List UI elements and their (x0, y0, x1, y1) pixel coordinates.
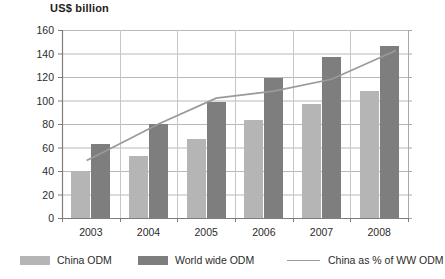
x-tick-label-2007: 2007 (310, 226, 334, 238)
legend-swatch-world-wide-odm (138, 256, 168, 265)
y-tick-label-80: 80 (42, 118, 54, 130)
y-tick-label-0: 0 (48, 212, 54, 224)
legend-label-world-wide-odm: World wide ODM (175, 254, 254, 266)
legend-line-china-percent (287, 260, 320, 261)
y-tick-label-160: 160 (36, 24, 54, 36)
y-tick-label-140: 140 (36, 48, 54, 60)
bar-china-odm-2003 (71, 171, 90, 218)
trend-line-layer (87, 51, 396, 161)
legend-label-china-odm: China ODM (57, 254, 112, 266)
bar-world-wide-odm-2005 (207, 102, 226, 218)
chart-figure: US$ billion 020406080100120140160 200320… (0, 0, 445, 279)
bar-world-wide-odm-2008 (380, 46, 399, 218)
bar-world-wide-odm-2003 (91, 144, 110, 218)
y-tick-label-120: 120 (36, 71, 54, 83)
legend-item-china-percent: China as % of WW ODM (287, 250, 444, 270)
x-tick-label-2004: 2004 (137, 226, 161, 238)
legend-item-china-odm: China ODM (20, 250, 112, 270)
bar-china-odm-2008 (360, 91, 379, 218)
legend-swatch-china-odm (20, 256, 50, 265)
x-axis-tick-labels: 200320042005200620072008 (79, 226, 391, 238)
bar-china-odm-2004 (129, 156, 148, 218)
bar-world-wide-odm-2006 (264, 78, 283, 218)
chart-legend: China ODM World wide ODM China as % of W… (0, 250, 445, 276)
trend-line-china-percent (87, 51, 396, 161)
bar-china-odm-2007 (302, 104, 321, 218)
bar-china-odm-2005 (187, 139, 206, 218)
legend-item-world-wide-odm: World wide ODM (138, 250, 254, 270)
legend-label-china-percent: China as % of WW ODM (328, 254, 444, 266)
y-tick-label-40: 40 (42, 165, 54, 177)
bar-world-wide-odm-2004 (149, 124, 168, 218)
x-tick-label-2003: 2003 (79, 226, 103, 238)
y-tick-label-100: 100 (36, 95, 54, 107)
y-tick-label-20: 20 (42, 189, 54, 201)
gridlines (62, 30, 408, 219)
y-tick-label-60: 60 (42, 142, 54, 154)
x-tick-label-2008: 2008 (367, 226, 391, 238)
x-tick-label-2005: 2005 (194, 226, 218, 238)
chart-plot-area: 020406080100120140160 200320042005200620… (0, 0, 445, 248)
bar-china-odm-2006 (244, 120, 263, 218)
y-axis-tick-labels: 020406080100120140160 (36, 24, 54, 224)
x-tick-label-2006: 2006 (252, 226, 276, 238)
